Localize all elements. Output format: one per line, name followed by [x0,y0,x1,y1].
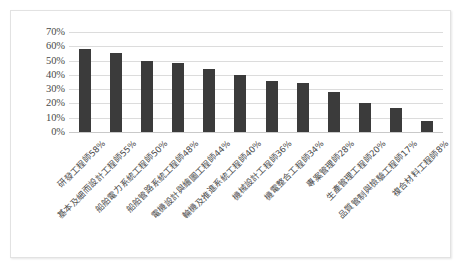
y-axis-tick-label: 10% [19,113,65,123]
bar-slot [412,32,443,132]
bar[interactable] [328,92,340,132]
x-axis-tick-label: 複合材料工程師8% [388,137,449,198]
y-axis: 70%60%50%40%30%20%10%0% [17,32,65,132]
y-axis-tick-label: 60% [19,41,65,51]
bar[interactable] [141,61,153,132]
bar-slot [287,32,318,132]
bar[interactable] [421,121,433,132]
bar[interactable] [390,108,402,132]
bar[interactable] [110,53,122,132]
bar[interactable] [234,75,246,132]
y-axis-tick-label: 40% [19,70,65,80]
bar[interactable] [79,49,91,132]
bar-series [69,32,443,132]
bar-slot [225,32,256,132]
bar-slot [163,32,194,132]
bar-slot [381,32,412,132]
bar-slot [131,32,162,132]
y-axis-tick-label: 20% [19,98,65,108]
bar-slot [69,32,100,132]
bar[interactable] [266,81,278,132]
bar-slot [100,32,131,132]
bar-slot [350,32,381,132]
bar-slot [318,32,349,132]
bar[interactable] [359,103,371,132]
chart-frame: 70%60%50%40%30%20%10%0% 研發工程師58%基本及細而設計工… [10,10,451,258]
y-axis-tick-label: 30% [19,84,65,94]
y-axis-tick-label: 50% [19,56,65,66]
axis-baseline [69,132,443,133]
y-axis-tick-label: 0% [19,127,65,137]
bar-slot [256,32,287,132]
chart-plot-area: 70%60%50%40%30%20%10%0% 研發工程師58%基本及細而設計工… [11,11,452,259]
x-axis-category-labels: 研發工程師58%基本及細而設計工程師55%船舶電力系統工程師50%船舶管路系統工… [69,135,443,255]
bar[interactable] [172,63,184,132]
bar-slot [194,32,225,132]
y-axis-tick-label: 70% [19,27,65,37]
bar[interactable] [297,83,309,132]
bar[interactable] [203,69,215,132]
